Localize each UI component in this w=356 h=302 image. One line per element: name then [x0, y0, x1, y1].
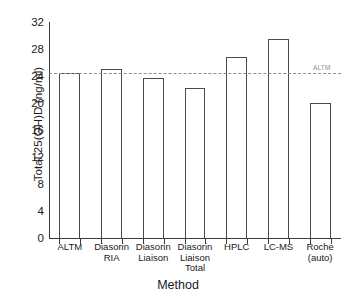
x-axis-tick-label: Diasorin Liaison	[132, 242, 174, 263]
x-axis-tick-label: LC-MS	[258, 242, 300, 253]
y-axis-tick-label: 0	[38, 232, 44, 244]
bar	[143, 78, 164, 238]
y-axis-tick-label: 8	[38, 178, 44, 190]
bar	[185, 88, 206, 238]
bar	[226, 57, 247, 238]
y-axis-tick-label: 24	[31, 70, 44, 82]
y-axis-tick-label: 28	[31, 43, 44, 55]
bar	[59, 73, 80, 238]
x-axis-tick-label: HPLC	[216, 242, 258, 253]
x-axis-title: Method	[0, 278, 356, 292]
x-axis-line	[49, 238, 341, 239]
x-axis-tick-label: Roche (auto)	[299, 242, 341, 263]
plot-area: 048121620242832 ALTM ALTMDiasorin RIADia…	[49, 22, 341, 238]
bar	[268, 39, 289, 238]
y-axis-tick-label: 16	[31, 124, 44, 136]
altm-reference-line	[49, 73, 341, 74]
y-axis-tick-label: 4	[38, 205, 44, 217]
x-axis-tick-label: ALTM	[49, 242, 91, 253]
x-axis-tick-label: Diasorin RIA	[91, 242, 133, 263]
bar	[101, 69, 122, 238]
bar-chart-figure: Total 25(OH)D (ng/ml) 048121620242832 AL…	[0, 0, 356, 302]
y-axis-tick-label: 20	[31, 97, 44, 109]
y-axis-tick-label: 32	[31, 16, 44, 28]
y-axis-line	[49, 22, 50, 238]
bar	[310, 103, 331, 238]
altm-reference-line-label: ALTM	[313, 64, 331, 71]
y-axis-tick-label: 12	[31, 151, 44, 163]
x-axis-tick-label: Diasorin Liaison Total	[174, 242, 216, 274]
